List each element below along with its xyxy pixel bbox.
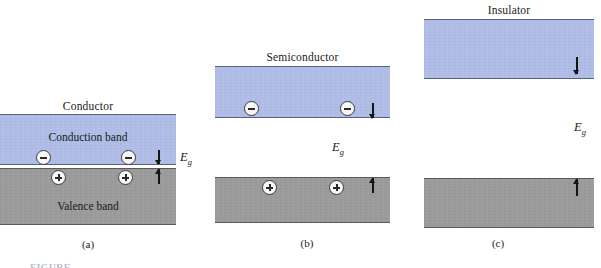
panel-conductor-caption: (a) bbox=[58, 238, 118, 250]
panel-conductor-title: Conductor bbox=[0, 100, 176, 112]
panel-conductor-valence-band-label: Valence band bbox=[0, 200, 176, 212]
band-gap-arrow-down-icon bbox=[368, 103, 377, 118]
panel-insulator-conduction-band bbox=[424, 19, 594, 79]
panel-insulator-valence-band bbox=[424, 178, 594, 228]
electron-carrier-icon bbox=[36, 150, 51, 165]
band-gap-arrow-down-icon bbox=[154, 150, 163, 164]
electron-carrier-icon bbox=[121, 150, 136, 165]
eg-symbol-subscript: g bbox=[582, 127, 586, 137]
panel-conductor-conduction-band-label: Conduction band bbox=[0, 131, 176, 143]
panel-insulator-caption: (c) bbox=[468, 237, 528, 249]
panel-insulator-band-gap-symbol: Eg bbox=[574, 120, 586, 137]
hole-carrier-icon bbox=[51, 170, 66, 185]
electron-carrier-icon bbox=[244, 101, 259, 116]
band-gap-arrow-up-icon bbox=[154, 169, 163, 184]
band-gap-arrow-up-icon bbox=[572, 179, 581, 196]
eg-symbol-letter: E bbox=[180, 150, 188, 164]
panel-semiconductor-conduction-band bbox=[215, 66, 390, 118]
eg-symbol-subscript: g bbox=[340, 147, 344, 157]
panel-conductor-valence-band bbox=[0, 168, 176, 225]
panel-insulator-title: Insulator bbox=[424, 4, 594, 16]
hole-carrier-icon bbox=[329, 180, 344, 195]
panel-conductor-band-gap-symbol: Eg bbox=[180, 150, 192, 167]
hole-carrier-icon bbox=[262, 180, 277, 195]
electron-carrier-icon bbox=[340, 101, 355, 116]
panel-semiconductor-valence-band bbox=[215, 177, 390, 223]
figure-caption-cropped: FIGURE bbox=[30, 262, 71, 268]
eg-symbol-subscript: g bbox=[188, 157, 192, 167]
panel-semiconductor-title: Semiconductor bbox=[215, 51, 390, 63]
eg-symbol-letter: E bbox=[574, 120, 582, 134]
band-diagram-figure: Conductor Conduction band Valence band E… bbox=[0, 0, 601, 268]
panel-semiconductor-band-gap-symbol: Eg bbox=[332, 140, 344, 157]
panel-semiconductor-caption: (b) bbox=[277, 237, 337, 249]
band-gap-arrow-up-icon bbox=[368, 178, 377, 193]
hole-carrier-icon bbox=[118, 170, 133, 185]
band-gap-arrow-down-icon bbox=[572, 57, 581, 74]
eg-symbol-letter: E bbox=[332, 140, 340, 154]
